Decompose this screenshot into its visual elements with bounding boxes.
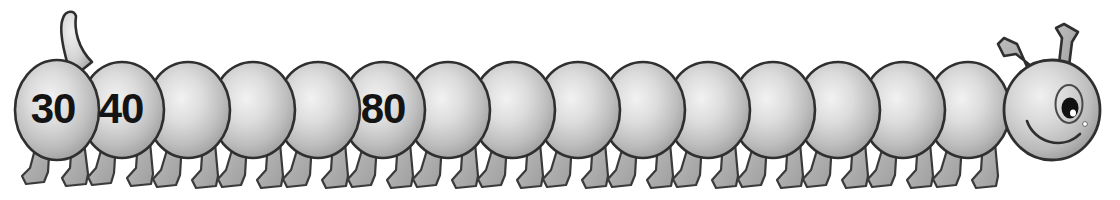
segment-number-1[interactable]: 30 <box>31 85 76 133</box>
eye-pupil <box>1062 98 1079 119</box>
segment-number-2[interactable]: 40 <box>99 85 144 133</box>
caterpillar-illustration <box>0 0 1120 200</box>
body-segments-group <box>15 60 1010 160</box>
head <box>1004 60 1100 160</box>
cheek-dot <box>1083 122 1088 127</box>
segment-number-6[interactable]: 80 <box>361 85 406 133</box>
head-group <box>998 24 1100 160</box>
worksheet-canvas: 30 40 80 <box>0 0 1120 200</box>
eye-highlight <box>1070 109 1076 116</box>
